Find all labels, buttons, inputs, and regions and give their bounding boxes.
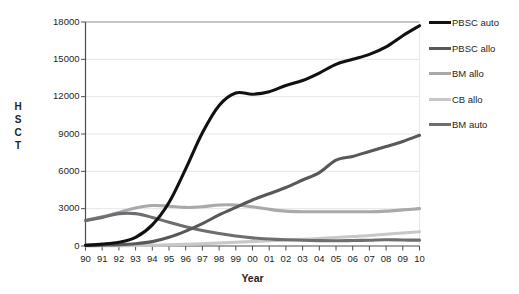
x-tick-label: 96	[177, 253, 195, 264]
x-tick-label: 99	[227, 253, 245, 264]
x-tick-label: 94	[143, 253, 161, 264]
y-axis-title: HSCT	[10, 100, 26, 152]
x-tick-label: 97	[193, 253, 211, 264]
y-tick-label: 12000	[34, 90, 80, 101]
x-tick-label: 04	[310, 253, 328, 264]
legend-item-bm-auto[interactable]: BM auto	[429, 112, 519, 138]
legend-swatch-icon	[429, 21, 451, 24]
x-axis-title: Year	[85, 272, 420, 284]
y-tick-label: 18000	[34, 16, 80, 27]
legend-label: BM allo	[452, 68, 484, 79]
legend-swatch-icon	[429, 98, 451, 101]
y-tick-label: 9000	[34, 128, 80, 139]
x-tick-label: 92	[110, 253, 128, 264]
x-tick-label: 00	[244, 253, 262, 264]
legend-label: PBSC auto	[452, 17, 499, 28]
x-tick-label: 98	[210, 253, 228, 264]
y-axis-title-letter: T	[10, 139, 26, 152]
x-tick-label: 08	[377, 253, 395, 264]
x-tick-label: 03	[294, 253, 312, 264]
x-tick-label: 91	[93, 253, 111, 264]
legend-label: PBSC allo	[452, 43, 495, 54]
legend-item-cb-allo[interactable]: CB allo	[429, 87, 519, 113]
legend-item-pbsc-auto[interactable]: PBSC auto	[429, 10, 519, 36]
x-tick-label: 05	[327, 253, 345, 264]
series-line-pbsc-allo	[86, 135, 420, 245]
legend-swatch-icon	[429, 123, 451, 126]
y-axis-ticks	[81, 22, 86, 246]
y-tick-label: 0	[34, 240, 80, 251]
x-tick-label: 09	[394, 253, 412, 264]
y-axis-title-letter: C	[10, 126, 26, 139]
legend-swatch-icon	[429, 47, 451, 50]
x-tick-label: 10	[411, 253, 429, 264]
y-tick-label: 15000	[34, 53, 80, 64]
data-series	[86, 26, 420, 246]
x-tick-label: 93	[127, 253, 145, 264]
legend-item-bm-allo[interactable]: BM allo	[429, 61, 519, 87]
chart-legend: PBSC autoPBSC alloBM alloCB alloBM auto	[429, 10, 519, 138]
x-tick-label: 07	[360, 253, 378, 264]
y-axis-title-letter: H	[10, 100, 26, 113]
x-tick-label: 02	[277, 253, 295, 264]
y-tick-label: 6000	[34, 165, 80, 176]
legend-label: BM auto	[452, 119, 487, 130]
y-tick-label: 3000	[34, 202, 80, 213]
legend-label: CB allo	[452, 94, 483, 105]
line-chart: 0300060009000120001500018000 90919293949…	[0, 0, 519, 294]
x-tick-label: 95	[160, 253, 178, 264]
x-tick-label: 90	[77, 253, 95, 264]
legend-item-pbsc-allo[interactable]: PBSC allo	[429, 36, 519, 62]
y-axis-title-letter: S	[10, 113, 26, 126]
x-tick-label: 06	[344, 253, 362, 264]
legend-swatch-icon	[429, 72, 451, 75]
x-tick-label: 01	[260, 253, 278, 264]
